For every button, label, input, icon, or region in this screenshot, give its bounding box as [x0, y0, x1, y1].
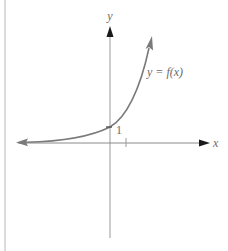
- y-axis-label: y: [106, 9, 113, 23]
- y-axis: [107, 26, 114, 238]
- curve-label: y = f(x): [146, 65, 183, 79]
- x-axis-arrow-icon: [199, 140, 210, 147]
- curve-y-equals-f-of-x: [16, 36, 153, 146]
- x-axis-label: x: [212, 136, 219, 150]
- x-axis: [18, 138, 210, 147]
- graph-canvas: y x y = f(x) 1: [0, 0, 228, 251]
- y-intercept-label: 1: [116, 123, 122, 137]
- y-axis-arrow-icon: [107, 26, 114, 37]
- exponential-graph-figure: y x y = f(x) 1: [0, 0, 228, 251]
